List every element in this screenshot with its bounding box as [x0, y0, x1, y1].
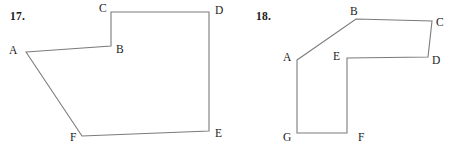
- figure-17-vertex-label-d: D: [215, 5, 223, 17]
- figure-17-number: 17.: [10, 10, 25, 22]
- figure-18-vertex-label-d: D: [432, 55, 440, 67]
- figure-17-vertex-label-f: F: [70, 132, 76, 144]
- figure-18-vertex-label-f: F: [358, 132, 364, 144]
- figure-17-vertex-label-b: B: [116, 44, 124, 56]
- figure-18-polygon: [297, 19, 432, 133]
- figure-18-vertex-label-g: G: [283, 132, 291, 144]
- figure-18-number: 18.: [256, 10, 271, 22]
- figure-17-vertex-label-e: E: [215, 128, 222, 140]
- worksheet-page: 17. 18. A B C D E F A B C D E F G: [0, 0, 454, 154]
- figure-17-vertex-label-c: C: [99, 3, 107, 15]
- figure-17-polygon: [26, 12, 209, 136]
- figure-18-vertex-label-a: A: [283, 52, 291, 64]
- figures-canvas: [0, 0, 454, 154]
- figure-17-vertex-label-a: A: [9, 45, 17, 57]
- figure-18-vertex-label-b: B: [350, 6, 358, 18]
- figure-18-vertex-label-c: C: [436, 17, 444, 29]
- figure-18-vertex-label-e: E: [333, 51, 340, 63]
